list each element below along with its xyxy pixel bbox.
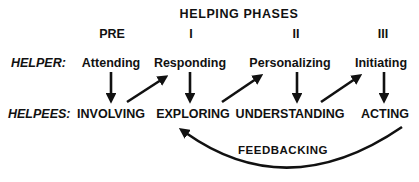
helpee-step-understanding: UNDERSTANDING xyxy=(236,108,345,121)
helpee-step-acting: ACTING xyxy=(361,108,409,121)
helper-step-attending: Attending xyxy=(82,57,140,70)
phase-label-1: I xyxy=(189,28,192,41)
helper-step-personalizing: Personalizing xyxy=(249,57,330,70)
helpees-row-label: HELPEES: xyxy=(8,108,71,121)
phase-label-2: II xyxy=(293,28,300,41)
helper-row-label: HELPER: xyxy=(11,57,66,70)
helpee-step-involving: INVOLVING xyxy=(77,108,145,121)
phase-label-3: III xyxy=(378,28,388,41)
arrows-layer xyxy=(0,0,419,182)
helper-step-responding: Responding xyxy=(154,57,226,70)
helping-phases-diagram: HELPING PHASES PRE I II III HELPER: Atte… xyxy=(0,0,419,182)
diagram-title: HELPING PHASES xyxy=(180,8,299,21)
helpee-step-exploring: EXPLORING xyxy=(156,108,230,121)
arrow-involving-to-responding-icon xyxy=(127,80,161,102)
phase-label-pre: PRE xyxy=(99,28,125,41)
arrow-understanding-to-initiating-icon xyxy=(321,79,355,102)
helper-step-initiating: Initiating xyxy=(355,57,407,70)
feedback-loop-label: FEEDBACKING xyxy=(238,144,328,157)
arrow-exploring-to-personalizing-icon xyxy=(222,79,256,102)
